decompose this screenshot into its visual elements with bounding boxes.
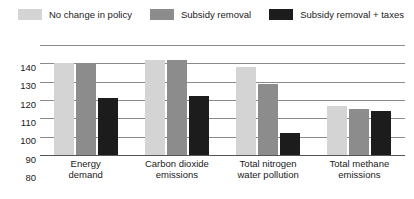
y-axis: 1401301201101009080: [8, 68, 36, 178]
bar[interactable]: [98, 98, 118, 155]
category-label: Total nitrogenwater pollution: [223, 158, 314, 180]
y-tick-label: 110: [21, 118, 36, 128]
chart-legend: No change in policy Subsidy removal Subs…: [0, 0, 414, 28]
axis-baseline: [40, 155, 405, 156]
category-label-line: Energy: [40, 158, 131, 169]
plot-wrapper: 1401301201101009080 EnergydemandCarbon d…: [0, 28, 414, 199]
y-tick-label: 140: [20, 63, 36, 73]
category-label-line: Total methane: [314, 158, 405, 169]
bar-group: [314, 45, 405, 155]
bar[interactable]: [145, 60, 165, 155]
legend-swatch-icon: [269, 9, 293, 20]
legend-label: Subsidy removal: [181, 9, 251, 20]
legend-label: No change in policy: [49, 9, 132, 20]
bar[interactable]: [327, 106, 347, 156]
legend-swatch-icon: [150, 9, 174, 20]
bar[interactable]: [189, 96, 209, 155]
y-tick-label: 90: [25, 155, 36, 165]
bar[interactable]: [349, 109, 369, 155]
bar[interactable]: [54, 63, 74, 155]
legend-item-subsidy-removal[interactable]: Subsidy removal: [150, 9, 251, 20]
category-label: Energydemand: [40, 158, 131, 180]
y-tick-label: 120: [20, 100, 36, 110]
category-label-line: Total nitrogen: [223, 158, 314, 169]
y-tick-label: 80: [25, 173, 36, 183]
bar-group: [40, 45, 131, 155]
plot-area: [40, 45, 405, 155]
category-label-line: emissions: [314, 169, 405, 180]
x-axis-category-labels: EnergydemandCarbon dioxideemissionsTotal…: [40, 158, 405, 180]
y-tick-label: 100: [20, 136, 36, 146]
category-label: Carbon dioxideemissions: [131, 158, 222, 180]
bar-group: [131, 45, 222, 155]
y-tick-label: 130: [20, 81, 36, 91]
category-label: Total methaneemissions: [314, 158, 405, 180]
bar-group: [223, 45, 314, 155]
legend-label: Subsidy removal + taxes: [300, 9, 404, 20]
bars-layer: [40, 45, 405, 155]
category-label-line: demand: [40, 169, 131, 180]
legend-item-no-change-in-policy[interactable]: No change in policy: [18, 9, 132, 20]
bar[interactable]: [167, 60, 187, 155]
legend-swatch-icon: [18, 9, 42, 20]
bar[interactable]: [371, 111, 391, 155]
bar[interactable]: [236, 67, 256, 155]
bar[interactable]: [258, 84, 278, 156]
bar[interactable]: [280, 133, 300, 155]
category-label-line: Carbon dioxide: [131, 158, 222, 169]
bar-chart: No change in policy Subsidy removal Subs…: [0, 0, 414, 199]
category-label-line: water pollution: [223, 169, 314, 180]
legend-item-subsidy-removal-plus-taxes[interactable]: Subsidy removal + taxes: [269, 9, 404, 20]
bar[interactable]: [76, 63, 96, 155]
category-label-line: emissions: [131, 169, 222, 180]
